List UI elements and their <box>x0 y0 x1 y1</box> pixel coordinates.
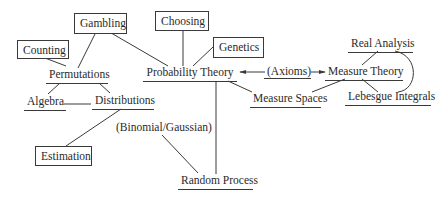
node-algebra: Algebra <box>24 94 66 111</box>
node-lebesgue-integrals: Lebesgue Integrals <box>345 89 431 106</box>
node-random-process: Random Process <box>178 173 253 190</box>
node-permutations: Permutations <box>46 67 108 84</box>
concept-map: Gambling Choosing Genetics Counting Perm… <box>0 0 446 198</box>
edge-measure-theory-real-analysis <box>362 51 378 65</box>
edge-permutations-distributions <box>99 83 110 93</box>
edge-genetics-probability <box>193 47 213 66</box>
node-probability-theory: Probability Theory <box>143 65 237 82</box>
edge-gambling-permutations <box>78 34 95 68</box>
node-binomial-gaussian: (Binomial/Gaussian) <box>116 120 204 134</box>
edge-gambling-probability <box>106 30 168 66</box>
edge-counting-permutations <box>45 58 66 66</box>
edge-distributions-estimation <box>66 109 121 146</box>
node-real-analysis: Real Analysis <box>348 36 413 53</box>
edge-permutations-algebra <box>48 83 60 94</box>
node-gambling: Gambling <box>74 13 127 34</box>
node-counting: Counting <box>17 40 69 59</box>
node-choosing: Choosing <box>155 11 209 31</box>
node-axioms: (Axioms) <box>264 64 311 79</box>
node-estimation: Estimation <box>35 146 92 166</box>
node-measure-spaces: Measure Spaces <box>250 91 321 108</box>
node-genetics: Genetics <box>213 37 264 58</box>
node-distributions: Distributions <box>92 93 154 110</box>
node-measure-theory: Measure Theory <box>325 64 403 81</box>
edge-binomial-random-process <box>162 135 198 173</box>
edge-probability-measure-spaces <box>228 81 252 92</box>
